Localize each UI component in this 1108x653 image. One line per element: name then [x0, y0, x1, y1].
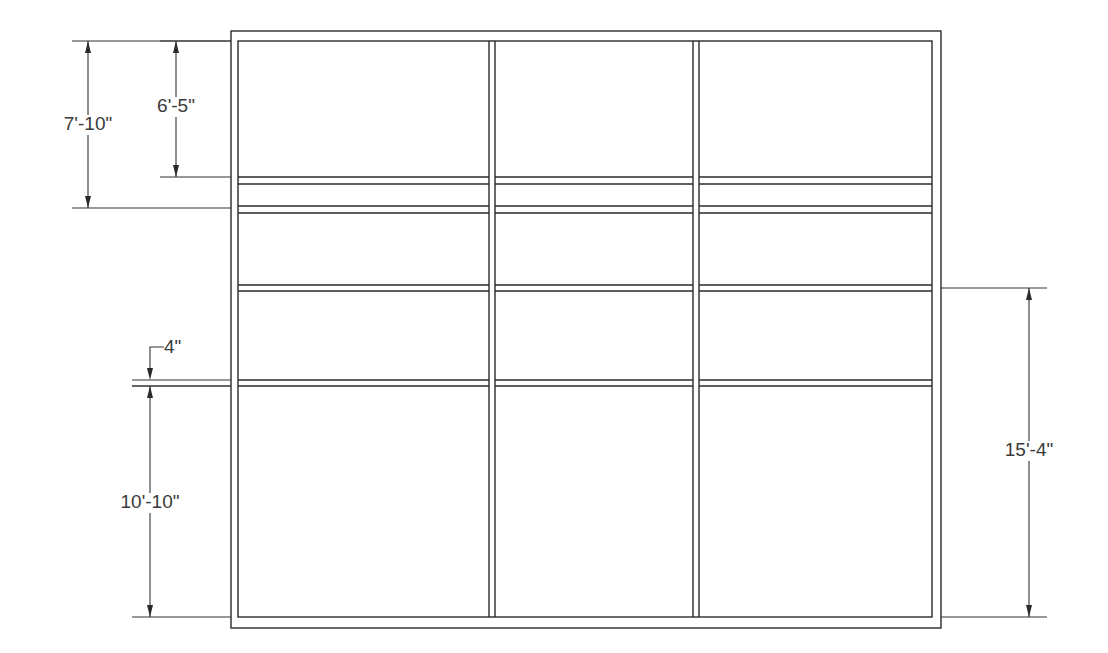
- door-frame: [231, 31, 941, 628]
- inner-frame: [238, 41, 932, 617]
- arrowhead-icon: [1026, 605, 1032, 617]
- arrowhead-icon: [147, 386, 153, 398]
- dimension-label-4in: 4": [164, 336, 181, 357]
- vertical-posts: [489, 41, 699, 617]
- horizontal-rails: [238, 177, 932, 386]
- door-elevation-drawing: 7'-10"6'-5"4"10'-10"15'-4": [0, 0, 1108, 653]
- dimension-annotations: 7'-10"6'-5"4"10'-10"15'-4": [56, 41, 1061, 617]
- dimension-label-6-5: 6'-5": [157, 95, 195, 116]
- arrowhead-icon: [173, 165, 179, 177]
- dimension-label-10-10: 10'-10": [121, 491, 180, 512]
- arrowhead-icon: [147, 605, 153, 617]
- dimension-label-15-4: 15'-4": [1005, 439, 1053, 460]
- arrowhead-icon: [173, 41, 179, 53]
- arrowhead-icon: [1026, 288, 1032, 300]
- arrowhead-icon: [85, 196, 91, 208]
- outer-frame: [231, 31, 941, 628]
- arrowhead-icon: [147, 368, 153, 380]
- arrowhead-icon: [85, 41, 91, 53]
- dimension-label-7-10: 7'-10": [64, 113, 112, 134]
